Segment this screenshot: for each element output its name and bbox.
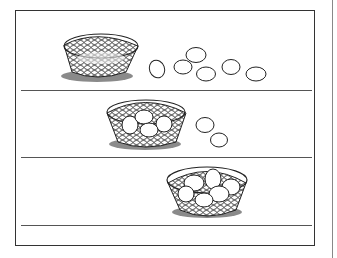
row-3-basket-icon [167, 167, 247, 218]
row-2-loose-eggs-icon [196, 118, 228, 148]
row-1-basket-icon [61, 34, 138, 82]
row-2-basket-icon [107, 100, 186, 150]
illustration [0, 0, 337, 258]
row-1-loose-eggs-icon [147, 48, 266, 82]
